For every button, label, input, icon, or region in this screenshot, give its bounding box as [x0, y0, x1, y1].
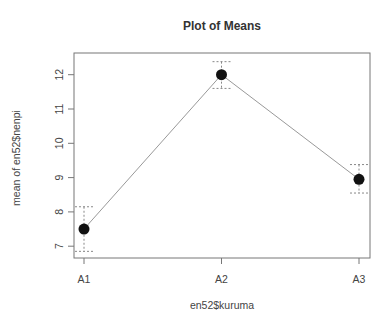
plot-frame: [74, 53, 370, 258]
x-axis: A1A2A3: [78, 258, 366, 285]
y-axis: 789101112: [53, 69, 74, 249]
means-line: [84, 75, 359, 229]
x-tick-label: A3: [353, 273, 366, 285]
y-tick-label: 10: [53, 137, 65, 149]
series-means: [75, 62, 368, 252]
mean-point: [216, 69, 227, 80]
plot-of-means-chart: Plot of Means 789101112 A1A2A3 en52$kuru…: [0, 0, 389, 333]
x-tick-label: A1: [78, 273, 91, 285]
y-tick-label: 7: [53, 243, 65, 249]
y-axis-label: mean of en52$nenpi: [10, 110, 22, 206]
mean-point: [354, 174, 365, 185]
y-tick-label: 12: [53, 69, 65, 81]
x-axis-label: en52$kuruma: [190, 299, 254, 311]
x-tick-label: A2: [215, 273, 228, 285]
y-tick-label: 9: [53, 175, 65, 181]
chart-title: Plot of Means: [183, 19, 261, 33]
y-tick-label: 8: [53, 209, 65, 215]
y-tick-label: 11: [53, 103, 65, 114]
mean-point: [79, 224, 90, 235]
